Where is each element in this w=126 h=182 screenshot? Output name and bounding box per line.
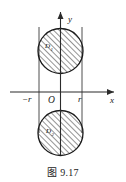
- figure-container: D 1 D 2 −r r O x y 图 9.17: [0, 0, 126, 182]
- x-tick-label-r: r: [78, 94, 82, 104]
- lower-disk-label: D: [45, 127, 51, 135]
- y-axis-arrow-icon: [58, 12, 64, 19]
- upper-disk-sublabel: 1: [51, 47, 54, 52]
- x-axis-label: x: [109, 95, 114, 105]
- origin-label: O: [48, 95, 55, 105]
- coordinate-diagram: D 1 D 2 −r r O x y: [0, 0, 126, 160]
- figure-caption-bar: 图 9.17: [0, 160, 126, 182]
- y-axis-label: y: [67, 14, 72, 24]
- x-tick-label-negative-r: −r: [22, 94, 32, 104]
- figure-caption: 图 9.17: [47, 164, 79, 179]
- upper-disk-label: D: [44, 42, 50, 50]
